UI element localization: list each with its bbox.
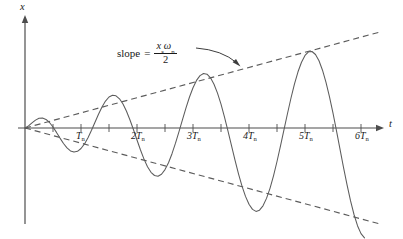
- x-tick-label-5: 5Tn: [299, 131, 313, 141]
- x-tick-label-6-sub: n: [366, 135, 369, 142]
- x-tick-label-5-text: 5T: [299, 130, 310, 141]
- x-tick-label-2-sub: n: [142, 135, 145, 142]
- x-tick-label-6-text: 6T: [355, 130, 366, 141]
- x-tick-label-4: 4Tn: [243, 131, 257, 141]
- x-axis-arrowhead: [376, 125, 384, 131]
- x-tick-label-2: 2Tn: [131, 131, 145, 141]
- x-tick-label-3-sub: n: [198, 135, 201, 142]
- x-tick-label-3: 3Tn: [187, 131, 201, 141]
- y-axis-label: x: [20, 2, 25, 13]
- x-tick-label-3-text: 3T: [187, 130, 198, 141]
- plot-canvas: [0, 0, 403, 239]
- lower-envelope-line: [25, 128, 380, 224]
- x-tick-label-2-text: 2T: [131, 130, 142, 141]
- numerator-omega-sub: n: [171, 48, 174, 55]
- x-tick-label-1-sub: n: [82, 135, 85, 142]
- x-tick-label-6: 6Tn: [355, 131, 369, 141]
- x-tick-label-4-sub: n: [254, 135, 257, 142]
- slope-annotation-denominator: 2: [163, 54, 168, 65]
- x-tick-label-4-text: 4T: [243, 130, 254, 141]
- slope-annotation-numerator: xsωn: [154, 40, 176, 53]
- numerator-x-sub: s: [161, 48, 164, 55]
- slope-annotation-arrow: [196, 48, 237, 63]
- response-curve: [25, 52, 365, 238]
- y-axis-arrowhead: [22, 15, 28, 23]
- x-axis-label: t: [389, 119, 392, 130]
- x-tick-label-5-sub: n: [310, 135, 313, 142]
- slope-annotation-word: slope: [117, 47, 140, 59]
- resonance-response-figure: x t Tn 2Tn 3Tn 4Tn 5Tn 6Tn slope = xsωn …: [0, 0, 403, 239]
- slope-annotation-fraction: xsωn 2: [154, 40, 176, 65]
- x-tick-label-1: Tn: [76, 131, 85, 141]
- slope-annotation-equals: =: [144, 47, 150, 59]
- x-tick-label-1-text: T: [76, 130, 82, 141]
- slope-annotation: slope = xsωn 2: [117, 40, 177, 65]
- upper-envelope-line: [25, 32, 380, 128]
